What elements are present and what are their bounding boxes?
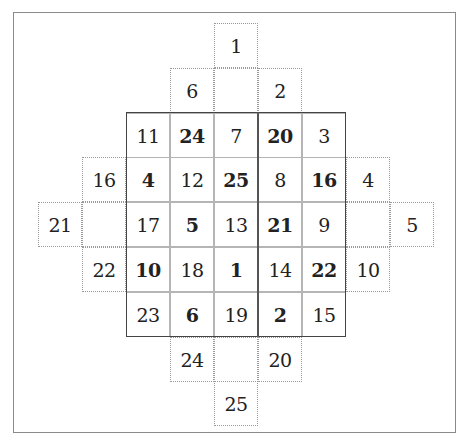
grid-cell: 20: [258, 113, 302, 158]
grid-cell: 25: [214, 157, 258, 202]
grid-cell: 21: [258, 202, 302, 247]
grid-cell: 4: [126, 157, 170, 202]
grid-cell: 19: [214, 292, 258, 337]
offset-cell: 25: [214, 381, 258, 426]
grid-cell: 18: [170, 247, 214, 292]
grid-cell: 14: [258, 247, 302, 292]
grid-cell: 1: [214, 247, 258, 292]
grid-cell: 11: [126, 113, 170, 158]
grid-cell: 2: [258, 292, 302, 337]
offset-cell: 10: [346, 247, 390, 292]
grid-cell: 3: [302, 113, 346, 158]
offset-cell: 6: [170, 68, 214, 113]
offset-cell: [82, 202, 126, 247]
offset-cell: 24: [170, 337, 214, 382]
offset-cell: 5: [390, 202, 434, 247]
offset-cell: 4: [346, 157, 390, 202]
grid-cell: 6: [170, 292, 214, 337]
grid-cell: 12: [170, 157, 214, 202]
grid-cell: 9: [302, 202, 346, 247]
grid-cell: 10: [126, 247, 170, 292]
grid-cell: 24: [170, 113, 214, 158]
grid-cell: 13: [214, 202, 258, 247]
grid-cell: 7: [214, 113, 258, 158]
offset-cell: [214, 68, 258, 113]
grid-cell: 5: [170, 202, 214, 247]
grid-cell: 17: [126, 202, 170, 247]
grid-cell: 15: [302, 292, 346, 337]
offset-cell: [214, 337, 258, 382]
offset-cell: 21: [38, 202, 82, 247]
grid-cell: 22: [302, 247, 346, 292]
grid-cell: 16: [302, 157, 346, 202]
offset-cell: 1: [214, 23, 258, 68]
grid-cell: 23: [126, 292, 170, 337]
offset-cell: 22: [82, 247, 126, 292]
offset-cell: [346, 202, 390, 247]
offset-cell: 16: [82, 157, 126, 202]
offset-cell: 2: [258, 68, 302, 113]
offset-cell: 20: [258, 337, 302, 382]
grid-cell: 8: [258, 157, 302, 202]
